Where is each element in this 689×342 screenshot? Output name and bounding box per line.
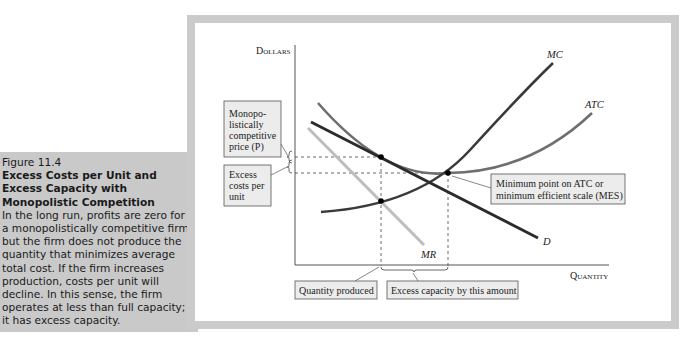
mr-curve	[308, 128, 424, 245]
quantity-produced-label: Quantity produced	[299, 285, 374, 296]
atc-label: ATC	[584, 99, 605, 110]
d-label: D	[542, 236, 551, 247]
mes-callout-line: Minimum point on ATC or	[496, 178, 604, 189]
mc-label: MC	[546, 49, 564, 60]
diagram-canvas: Dollars Quantity MC ATC D MR Monopo- lis…	[0, 0, 689, 342]
excess-costs-callout-line: costs per	[229, 180, 265, 191]
x-axis-label: Quantity	[570, 270, 608, 281]
mes-point	[445, 170, 451, 176]
excess-costs-callout-line: Excess	[229, 169, 257, 180]
y-axis-label: Dollars	[256, 45, 291, 56]
excess-capacity-brace	[381, 267, 448, 272]
excess-cost-brace	[287, 160, 292, 173]
mc-mr-intersection-point	[378, 198, 384, 204]
excess-capacity-leader-line	[413, 273, 418, 281]
price-callout-line: listically	[229, 119, 263, 130]
quantity-produced-leader-line	[355, 267, 379, 281]
excess-capacity-label: Excess capacity by this amount	[391, 285, 517, 296]
tangency-point	[378, 154, 384, 160]
mes-leader-line	[452, 176, 491, 188]
price-callout-line: competitive	[229, 130, 277, 141]
price-callout-line: Monopo-	[229, 108, 266, 119]
price-leader-line	[281, 144, 288, 156]
mr-label: MR	[420, 249, 437, 260]
mes-callout-line: minimum efficient scale (MES)	[496, 190, 623, 202]
excess-costs-callout-line: unit	[229, 191, 245, 202]
price-callout-line: price (P)	[229, 141, 264, 153]
excess-costs-leader-line	[271, 167, 287, 175]
